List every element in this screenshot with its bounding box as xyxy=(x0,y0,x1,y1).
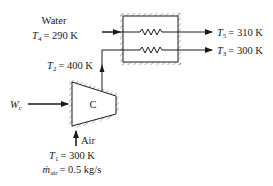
mass-flow-label: ṁair= 0.5 kg/s xyxy=(43,164,102,177)
resistor-water-icon xyxy=(140,29,162,35)
air-label: Air xyxy=(81,135,96,146)
t4-label: T4= 290 K xyxy=(32,30,78,43)
compressor-exit-arrow-icon xyxy=(100,64,105,72)
t5-label: T5= 310 K xyxy=(217,27,263,40)
heat-exchanger xyxy=(102,13,212,65)
t1-label: T1= 300 K xyxy=(49,150,95,163)
heat-exchanger-box xyxy=(123,16,178,62)
resistor-air-icon xyxy=(140,47,162,53)
t2-label: T2= 400 K xyxy=(47,60,93,73)
work-label: Wc xyxy=(10,99,23,112)
diagram-canvas: C Water T4= 290 K T2= 400 K T5= 310 K T3… xyxy=(0,0,273,186)
t3-label: T3= 300 K xyxy=(217,45,263,58)
water-label: Water xyxy=(42,15,67,26)
compressor-label: C xyxy=(89,99,96,110)
